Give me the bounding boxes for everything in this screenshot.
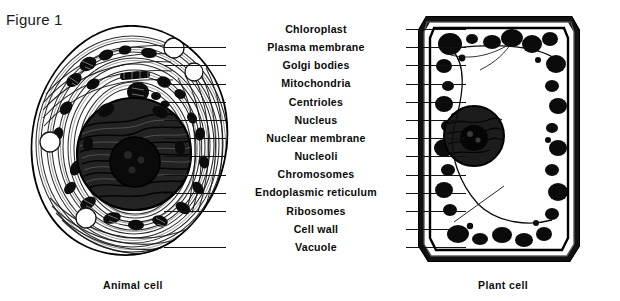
leader-line-left <box>164 65 226 66</box>
label-row-vacuole: Vacuole <box>228 238 404 256</box>
label-row-ribosomes: Ribosomes <box>228 202 404 220</box>
label-vacuole: Vacuole <box>292 242 340 253</box>
label-plasma-membrane: Plasma membrane <box>264 42 367 53</box>
label-nuclear-membrane: Nuclear membrane <box>263 133 368 144</box>
label-row-nucleus: Nucleus <box>228 111 404 129</box>
label-chromosomes: Chromosomes <box>275 169 358 180</box>
label-endoplasmic-reticulum: Endoplasmic reticulum <box>252 187 380 198</box>
leader-line-right <box>406 229 466 230</box>
leader-line-right <box>406 156 466 157</box>
leader-line-left <box>164 120 226 121</box>
caption-plant-cell: Plant cell <box>478 279 528 291</box>
label-row-golgi-bodies: Golgi bodies <box>228 56 404 74</box>
label-cell-wall: Cell wall <box>291 224 342 235</box>
leader-line-right <box>406 29 466 30</box>
leader-line-right <box>406 65 466 66</box>
leader-line-left <box>164 193 226 194</box>
leader-line-left <box>164 47 226 48</box>
label-ribosomes: Ribosomes <box>283 206 348 217</box>
label-golgi-bodies: Golgi bodies <box>279 60 352 71</box>
label-row-cell-wall: Cell wall <box>228 220 404 238</box>
label-row-nuclear-membrane: Nuclear membrane <box>228 129 404 147</box>
leader-line-right <box>406 120 466 121</box>
leader-line-right <box>406 211 466 212</box>
leader-line-left <box>164 175 226 176</box>
label-chloroplast: Chloroplast <box>282 24 350 35</box>
animal-cell-micrograph <box>28 22 234 258</box>
label-list: Chloroplast Plasma membrane Golgi bodies… <box>228 20 404 256</box>
label-row-mitochondria: Mitochondria <box>228 75 404 93</box>
label-row-plasma-membrane: Plasma membrane <box>228 38 404 56</box>
label-row-chloroplast: Chloroplast <box>228 20 404 38</box>
figure-root: Figure 1 <box>0 0 620 301</box>
label-mitochondria: Mitochondria <box>278 78 354 89</box>
caption-animal-cell: Animal cell <box>103 279 163 291</box>
leader-line-left <box>164 84 226 85</box>
label-row-nucleoli: Nucleoli <box>228 147 404 165</box>
label-nucleoli: Nucleoli <box>291 151 340 162</box>
leader-line-left <box>164 247 226 248</box>
label-centrioles: Centrioles <box>286 97 346 108</box>
leader-line-right <box>406 84 466 85</box>
label-row-centrioles: Centrioles <box>228 93 404 111</box>
leader-line-right <box>406 193 466 194</box>
leader-line-left <box>164 211 226 212</box>
label-row-endoplasmic-reticulum: Endoplasmic reticulum <box>228 184 404 202</box>
leader-line-right <box>406 175 466 176</box>
leader-line-right <box>406 247 466 248</box>
leader-line-right <box>406 102 466 103</box>
leader-line-left <box>164 102 226 103</box>
leader-line-right <box>406 47 466 48</box>
label-nucleus: Nucleus <box>292 115 341 126</box>
leader-line-left <box>164 156 226 157</box>
label-row-chromosomes: Chromosomes <box>228 166 404 184</box>
leader-line-left <box>164 138 226 139</box>
leader-line-right <box>406 138 466 139</box>
